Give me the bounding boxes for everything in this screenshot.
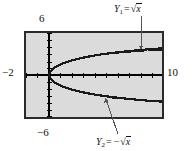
annotation-y2: Y2=−√x <box>96 136 131 149</box>
plot-svg <box>0 0 192 151</box>
annotation-y2-equals: = <box>105 136 113 147</box>
annotation-y1-equals: = <box>123 3 131 14</box>
axis-label-ymin: −6 <box>37 127 49 138</box>
annotation-y1: Y1=√x <box>114 3 142 16</box>
annotation-y2-radicand: x <box>126 136 131 147</box>
axis-label-xmin: −2 <box>2 67 14 78</box>
axis-label-ymax: 6 <box>39 13 45 24</box>
annotation-y1-radicand: x <box>136 3 141 14</box>
axis-label-xmax: 10 <box>167 67 178 78</box>
